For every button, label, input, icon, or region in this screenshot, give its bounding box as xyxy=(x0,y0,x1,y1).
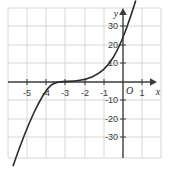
x-tick-label: -5 xyxy=(23,88,31,98)
x-axis-label: x xyxy=(155,86,161,97)
y-tick-label: -20 xyxy=(105,114,118,124)
y-axis-label: y xyxy=(113,8,119,19)
y-tick-label: 30 xyxy=(108,21,118,31)
y-tick-label: 20 xyxy=(108,40,118,50)
x-tick-label: 1 xyxy=(139,88,144,98)
origin-label: O xyxy=(126,85,133,96)
y-tick-label: -30 xyxy=(105,132,118,142)
y-tick-label: -10 xyxy=(105,95,118,105)
coordinate-plane: -5 -4 -3 -2 -1 1 30 20 10 -10 -20 -30 O … xyxy=(0,0,170,169)
x-tick-label: -3 xyxy=(61,88,69,98)
x-tick-label: -2 xyxy=(81,88,89,98)
graph-figure: -5 -4 -3 -2 -1 1 30 20 10 -10 -20 -30 O … xyxy=(0,0,170,169)
